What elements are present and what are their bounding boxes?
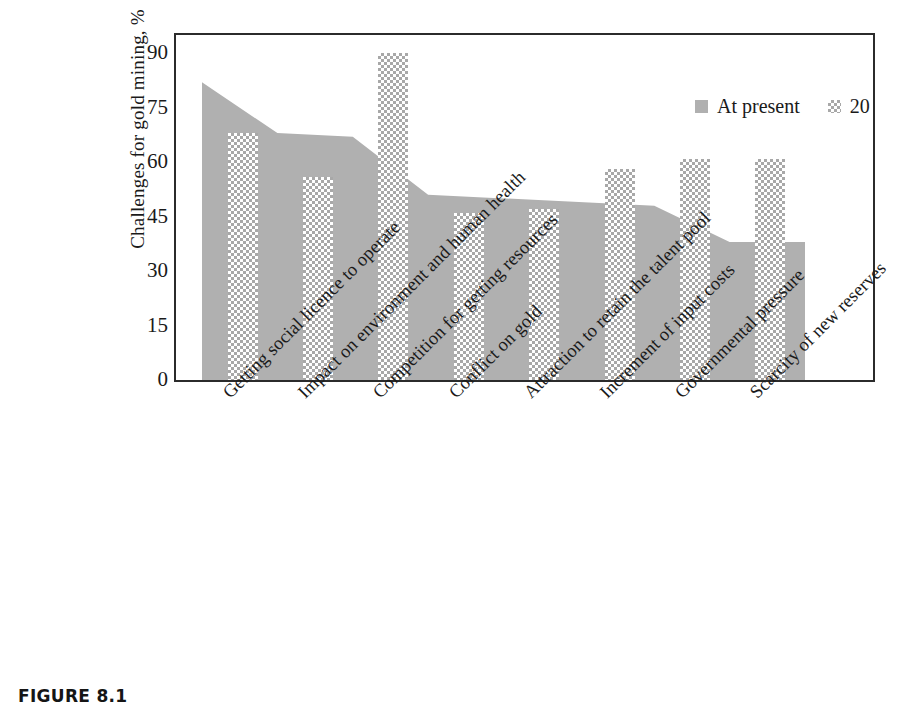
legend-label: At present — [717, 95, 800, 118]
bar-20-years-later — [755, 159, 785, 381]
y-tick-label: 90 — [122, 42, 168, 63]
legend-label: 20 years later — [850, 95, 875, 118]
y-tick-label: 15 — [122, 315, 168, 336]
bar-20-years-later — [378, 53, 408, 380]
figure-caption: FIGURE 8.1 — [18, 686, 127, 706]
legend-swatch-checker-icon — [828, 100, 841, 113]
y-tick-label: 60 — [122, 151, 168, 172]
chart-legend: At present20 years later — [695, 95, 875, 118]
figure-container: Challenges for gold mining, % 0153045607… — [0, 0, 915, 720]
y-tick-label: 75 — [122, 97, 168, 118]
y-tick-label: 0 — [122, 369, 168, 390]
bar-20-years-later — [605, 169, 635, 380]
legend-entry: 20 years later — [828, 95, 875, 118]
y-tick-label: 30 — [122, 260, 168, 281]
x-axis-category-labels: Getting social licence to operateImpact … — [0, 388, 915, 648]
bar-20-years-later — [228, 133, 258, 380]
y-tick-label: 45 — [122, 206, 168, 227]
legend-entry: At present — [695, 95, 800, 118]
legend-swatch-solid-icon — [695, 100, 708, 113]
bar-20-years-later — [680, 159, 710, 381]
